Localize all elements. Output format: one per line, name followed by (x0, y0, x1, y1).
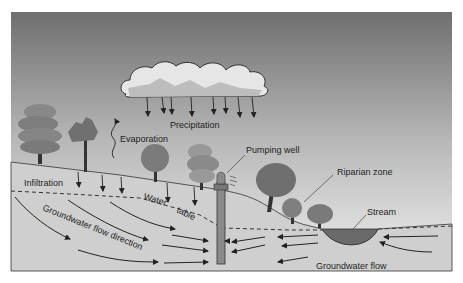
groundwater-diagram: Precipitation Evaporation Infiltration W… (0, 0, 463, 283)
groundwater-flow-label: Groundwater flow (316, 261, 387, 271)
evaporation-label: Evaporation (120, 134, 168, 144)
stream-label: Stream (367, 207, 396, 217)
cloud-icon (121, 62, 268, 97)
precipitation-label: Precipitation (170, 120, 220, 130)
pumping-well-label: Pumping well (246, 145, 300, 155)
riparian-zone-label: Riparian zone (337, 167, 393, 177)
infiltration-label: Infiltration (24, 178, 63, 188)
